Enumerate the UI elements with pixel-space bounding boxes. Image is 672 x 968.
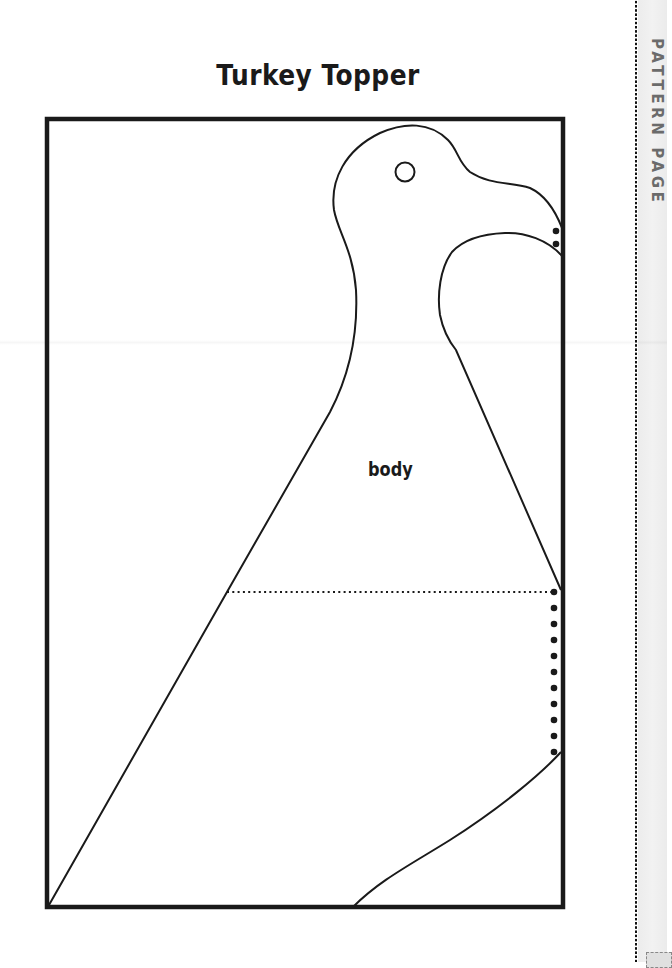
- placement-dot: [553, 228, 560, 235]
- fold-dots-vertical: [551, 589, 558, 756]
- eye-icon: [396, 163, 415, 182]
- pattern-piece-label: body: [368, 458, 413, 480]
- placement-dot: [553, 241, 560, 248]
- body-outline-back-neck: [439, 233, 562, 590]
- body-outline-bottom-curve: [353, 752, 561, 907]
- pattern-frame: [47, 119, 563, 907]
- body-outline-front: [49, 125, 562, 905]
